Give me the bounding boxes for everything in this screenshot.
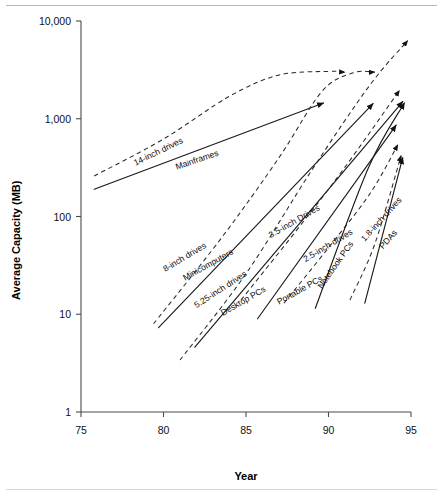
- series-label-portable-pcs: Portable PCs: [275, 273, 324, 306]
- axes: [81, 21, 411, 412]
- series-line-minicomputers: [159, 104, 373, 328]
- series-line-5-25-inch-drives: [180, 41, 408, 360]
- y-axis-tick-labels: 1101001,00010,000: [39, 15, 71, 418]
- x-axis-title: Year: [234, 470, 258, 482]
- x-tick-label-85: 85: [240, 424, 252, 436]
- y-axis-ticks: [76, 21, 81, 412]
- capacity-vs-year-chart: 1101001,00010,000 7580859095 14-inch dri…: [0, 0, 443, 493]
- y-tick-label-10,000: 10,000: [39, 15, 71, 27]
- series-label-pdas: PDAs: [377, 228, 399, 251]
- x-axis-tick-labels: 7580859095: [75, 424, 417, 436]
- series-line-8-inch-drives: [154, 71, 375, 324]
- y-tick-label-10: 10: [59, 308, 71, 320]
- series-group: [94, 41, 408, 360]
- series-line-3-5-inch-drives: [241, 90, 399, 300]
- y-tick-label-100: 100: [53, 211, 71, 223]
- y-tick-label-1,000: 1,000: [45, 113, 71, 125]
- series-line-mainframes: [94, 103, 323, 189]
- y-tick-label-1: 1: [65, 406, 71, 418]
- x-tick-label-80: 80: [158, 424, 170, 436]
- series-label-group: 14-inch drivesMainframes8-inch drivesMin…: [132, 135, 404, 318]
- figure-container: 1101001,00010,000 7580859095 14-inch dri…: [0, 0, 443, 493]
- x-tick-label-90: 90: [323, 424, 335, 436]
- x-tick-label-75: 75: [75, 424, 87, 436]
- x-axis-ticks: [81, 412, 411, 417]
- x-tick-label-95: 95: [405, 424, 417, 436]
- y-axis-title: Average Capacity (MB): [10, 180, 22, 300]
- series-label-mainframes: Mainframes: [174, 148, 220, 172]
